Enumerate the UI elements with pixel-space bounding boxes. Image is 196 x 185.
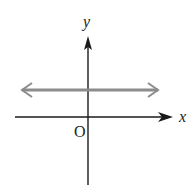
x-axis [15, 112, 173, 122]
horizontal-line [22, 83, 158, 97]
origin-label: O [74, 123, 86, 140]
y-axis [84, 36, 92, 185]
y-axis-label: y [81, 13, 91, 31]
x-axis-label: x [178, 108, 186, 125]
diagram-svg: y x O [0, 0, 196, 185]
coordinate-diagram: y x O [0, 0, 196, 185]
